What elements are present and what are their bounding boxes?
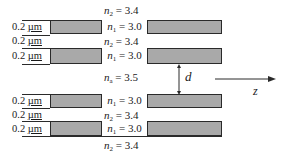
thickness-label: 0.2 µm (12, 35, 42, 47)
thickness-label: 0.2 µm (12, 21, 42, 33)
interface-line (22, 121, 50, 122)
n1-layer-label: n1 = 3.0 (101, 20, 148, 34)
index-value: = 3.0 (116, 49, 141, 61)
thickness-unit: µm (28, 123, 42, 134)
thickness-number: 0.2 (12, 35, 28, 46)
interface-line (22, 64, 50, 65)
index-value: = 3.4 (113, 4, 138, 16)
n1-layer-label: n1 = 3.0 (101, 121, 148, 136)
thickness-label: 0.2 µm (12, 109, 42, 121)
index-value: = 3.0 (116, 122, 141, 134)
thickness-unit: µm (28, 95, 42, 106)
interface-line (22, 48, 50, 49)
index-value: = 3.5 (113, 71, 138, 83)
index-value: = 3.4 (113, 109, 138, 121)
interface-line (22, 136, 222, 137)
thickness-label: 0.2 µm (12, 50, 42, 62)
thickness-label: 0.2 µm (12, 123, 42, 135)
cladding-top-index-label: n2 = 3.4 (104, 4, 138, 20)
thickness-number: 0.2 (12, 123, 28, 134)
n1-layer-label: n1 = 3.0 (101, 94, 148, 108)
n1-layer-band: n1 = 3.0 (50, 121, 222, 136)
thickness-number: 0.2 (12, 109, 28, 120)
n1-layer-band: n1 = 3.0 (50, 94, 222, 108)
axis-symbol: z (253, 84, 258, 98)
thickness-unit: µm (28, 50, 42, 61)
propagation-axis-arrow-icon (214, 74, 278, 84)
index-value: = 3.0 (116, 94, 141, 106)
index-value: = 3.4 (113, 35, 138, 47)
thickness-number: 0.2 (12, 95, 28, 106)
index-value: = 3.4 (113, 139, 138, 151)
gap-symbol: d (185, 69, 192, 84)
thickness-label: 0.2 µm (12, 95, 42, 107)
index-value: = 3.0 (116, 20, 141, 32)
thickness-unit: µm (28, 35, 42, 46)
thickness-unit: µm (28, 109, 42, 120)
thickness-number: 0.2 (12, 21, 28, 32)
thickness-number: 0.2 (12, 50, 28, 61)
core-index-label: na = 3.5 (104, 71, 138, 87)
cladding-bottom-index-label: n2 = 3.4 (104, 139, 138, 155)
gap-label: d (185, 71, 192, 83)
n1-layer-label: n1 = 3.0 (101, 48, 148, 64)
axis-label: z (253, 85, 258, 97)
n1-layer-band: n1 = 3.0 (50, 48, 222, 64)
n1-layer-band: n1 = 3.0 (50, 20, 222, 34)
thickness-unit: µm (28, 21, 42, 32)
